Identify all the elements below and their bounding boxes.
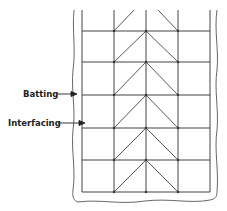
bottom-wavy-edge	[78, 192, 217, 202]
vertical-lines	[82, 10, 210, 192]
right-wavy-edge	[216, 10, 217, 192]
batting-label: Batting	[23, 89, 58, 99]
left-wavy-edge	[73, 10, 78, 202]
quilt-strip-diagram	[0, 0, 227, 211]
fabric-outline	[73, 10, 218, 202]
interfacing-arrow	[58, 121, 85, 126]
batting-arrow	[57, 92, 77, 97]
interfacing-label: Interfacing	[8, 118, 61, 128]
